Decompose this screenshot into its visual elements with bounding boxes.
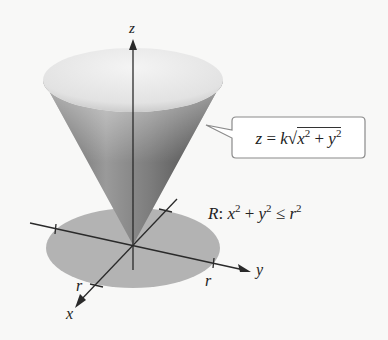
surface-equation: z = k√x2 + y2 <box>256 127 342 149</box>
y-axis-label: y <box>256 262 263 278</box>
region-R: R <box>208 204 218 223</box>
x-axis-label: x <box>66 306 73 322</box>
z-axis-arrow-icon <box>129 39 137 50</box>
y-axis-arrow-icon <box>238 264 251 272</box>
eq-plus: + <box>310 129 328 148</box>
region-plus: + <box>240 204 258 223</box>
figure-cone-over-disk: z y x r r z = k√x2 + y2 R: x2 + y2 ≤ r2 <box>0 0 388 340</box>
z-axis-label: z <box>129 21 135 36</box>
region-label: R: x2 + y2 ≤ r2 <box>208 202 302 224</box>
eq-equals: = <box>262 129 280 148</box>
eq-k: k <box>280 129 288 148</box>
diagram-canvas <box>0 0 388 340</box>
region-le: ≤ <box>272 204 290 223</box>
surface-equation-callout: z = k√x2 + y2 <box>232 117 365 158</box>
eq-exp: 2 <box>336 127 342 139</box>
r-label-y: r <box>205 273 211 289</box>
sqrt-icon: √ <box>288 129 297 148</box>
region-y: y <box>259 204 267 223</box>
region-x: x <box>227 204 235 223</box>
eq-x: x <box>297 129 305 148</box>
eq-y: y <box>328 129 336 148</box>
radicand: x2 + y2 <box>297 127 341 148</box>
region-exp: 2 <box>296 202 302 214</box>
r-label-x: r <box>76 278 82 294</box>
